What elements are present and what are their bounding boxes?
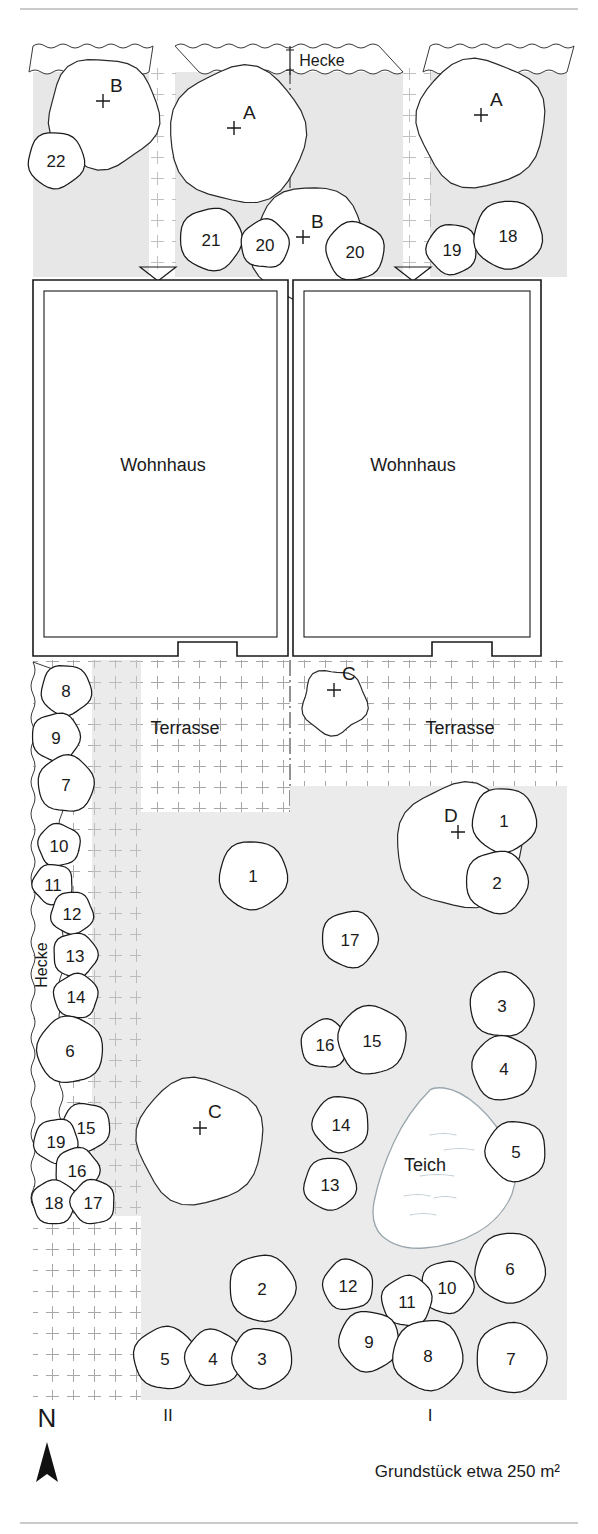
group-marker-label: A [490, 89, 503, 110]
shrub-number: 19 [443, 241, 462, 260]
compass-rose: N [36, 1403, 58, 1482]
shrub-circle: 18 [474, 201, 543, 269]
section-marker: I [428, 1406, 433, 1425]
shrub-number: 14 [67, 988, 86, 1007]
shrub-number: 7 [61, 776, 70, 795]
compass-letter: N [38, 1403, 57, 1433]
hedge-top-label: Hecke [299, 52, 344, 69]
shrub-number: 19 [47, 1133, 66, 1152]
pond-label: Teich [404, 1155, 446, 1175]
shrub-number: 1 [248, 867, 257, 886]
shrub-number: 4 [499, 1060, 508, 1079]
group-marker-label: C [342, 663, 356, 684]
terrasse-right-label: Terrasse [425, 718, 494, 738]
section-label: I [428, 1406, 433, 1425]
shrub-number: 9 [51, 729, 60, 748]
shrub-number: 10 [438, 1279, 457, 1298]
plot-area-caption: Grundstück etwa 250 m² [375, 1462, 561, 1481]
garden-plan-figure: Hecke 222120201918 Wohnhaus Wohnhaus [0, 0, 598, 1534]
shrub-number: 18 [499, 227, 518, 246]
shrub-number: 17 [341, 931, 360, 950]
shrub-number: 12 [339, 1277, 358, 1296]
group-marker-label: C [208, 1101, 222, 1122]
shrub-number: 1 [499, 812, 508, 831]
shrub-number: 20 [256, 236, 275, 255]
shrub-number: 2 [492, 874, 501, 893]
shrub-number: 3 [257, 1350, 266, 1369]
house-left-label: Wohnhaus [120, 455, 206, 475]
shrub-number: 5 [160, 1350, 169, 1369]
group-marker-label: B [110, 75, 123, 96]
garden-plan-svg: Hecke 222120201918 Wohnhaus Wohnhaus [0, 0, 598, 1534]
shrub-number: 13 [321, 1176, 340, 1195]
plot-area-caption-text: Grundstück etwa 250 m² [375, 1462, 561, 1481]
shrub-circle: 15 [338, 1005, 406, 1074]
group-marker-label: B [311, 211, 324, 232]
shrub-number: 16 [68, 1162, 87, 1181]
shrub-number: 8 [423, 1347, 432, 1366]
shrub-number: 15 [77, 1119, 96, 1138]
section-label: II [163, 1406, 172, 1425]
shrub-number: 18 [45, 1194, 64, 1213]
shrub-number: 21 [202, 231, 221, 250]
shrub-number: 7 [506, 1350, 515, 1369]
section-tick-layer: III [163, 1406, 432, 1425]
shrub-number: 9 [364, 1333, 373, 1352]
shrub-number: 12 [63, 905, 82, 924]
hedge-left-label: Hecke [33, 942, 50, 987]
shrub-number: 15 [363, 1032, 382, 1051]
shrub-number: 16 [316, 1036, 335, 1055]
shrub-number: 3 [497, 997, 506, 1016]
terrasse-left-label: Terrasse [150, 718, 219, 738]
section-marker: II [163, 1406, 172, 1425]
shrub-number: 22 [47, 152, 66, 171]
shrub-number: 2 [257, 1280, 266, 1299]
shrub-number: 11 [398, 1293, 416, 1312]
shrub-number: 8 [61, 682, 70, 701]
shrub-number: 13 [66, 947, 85, 966]
group-marker-label: A [243, 102, 256, 123]
shrub-circle: 4 [472, 1035, 536, 1100]
north-arrow-icon [36, 1442, 58, 1482]
shrub-number: 6 [505, 1260, 514, 1279]
shrub-number: 4 [208, 1350, 217, 1369]
shrub-number: 17 [84, 1194, 103, 1213]
group-marker-label: D [444, 805, 458, 826]
shrub-number: 6 [65, 1042, 74, 1061]
shrub-number: 14 [332, 1116, 351, 1135]
shrub-circle: 6 [475, 1233, 546, 1303]
shrub-number: 10 [50, 837, 69, 856]
house-right-label: Wohnhaus [370, 455, 456, 475]
shrub-number: 11 [44, 876, 62, 895]
shrub-number: 20 [346, 243, 365, 262]
shrub-number: 5 [511, 1143, 520, 1162]
